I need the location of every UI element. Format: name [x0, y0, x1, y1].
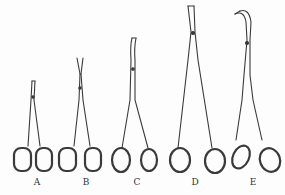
label-c: C — [134, 177, 141, 187]
label-b: B — [83, 177, 90, 187]
scissors-illustration — [0, 0, 285, 195]
label-a: A — [34, 177, 41, 187]
scissors-e — [229, 10, 284, 174]
scissors-figure: A B C D E — [0, 0, 285, 195]
scissors-a — [14, 81, 52, 171]
label-d: D — [191, 177, 198, 187]
scissors-c — [112, 38, 157, 172]
scissors-d — [170, 6, 225, 173]
label-e: E — [250, 177, 257, 187]
scissors-b — [59, 58, 101, 171]
